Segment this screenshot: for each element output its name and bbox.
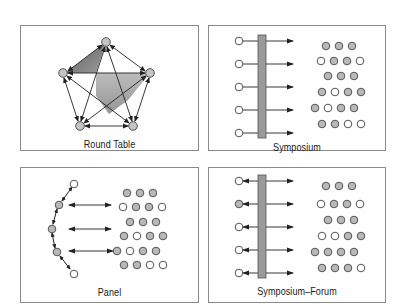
lectern-bar: [258, 175, 266, 278]
participant-node: [102, 38, 111, 47]
symposium-diagram: [209, 26, 387, 152]
panel-label: Panel: [33, 286, 185, 298]
audience: [113, 189, 167, 269]
panel-diagram: [21, 168, 200, 304]
participant-node: [146, 69, 155, 78]
symposium-panel: Symposium: [208, 25, 386, 151]
speakers: [235, 177, 243, 277]
speakers: [235, 37, 243, 137]
symposium-forum-diagram: [209, 168, 387, 304]
participant-node: [76, 122, 85, 131]
panel-arrows: [69, 205, 113, 251]
round-table-diagram: [21, 26, 200, 152]
speaker-arrows: [243, 181, 293, 273]
round-table-panel: Round Table: [20, 25, 199, 151]
panel-panel: Panel: [20, 167, 199, 303]
speaker-arrows: [243, 41, 293, 133]
round-table-label: Round Table: [33, 138, 185, 150]
participant-node: [129, 122, 138, 131]
participant-node: [59, 69, 68, 78]
audience: [311, 42, 365, 128]
symposium-forum-label: Symposium–Forum: [221, 285, 372, 297]
lectern-bar: [258, 35, 266, 138]
symposium-forum-panel: Symposium–Forum: [208, 167, 386, 303]
symposium-label: Symposium: [221, 141, 372, 153]
audience: [311, 182, 365, 272]
